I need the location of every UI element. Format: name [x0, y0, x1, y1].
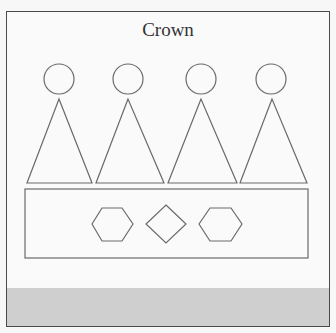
circle-3 [186, 64, 216, 94]
circle-4 [256, 64, 286, 94]
triangle-3 [168, 99, 237, 183]
crown-diagram [0, 0, 336, 333]
hexagon-gem-2 [199, 208, 242, 241]
circle-1 [44, 64, 74, 94]
triangle-1 [27, 99, 92, 183]
triangle-2 [96, 99, 164, 183]
triangle-4 [240, 99, 307, 183]
diamond-gem [146, 205, 186, 243]
hexagon-gem-1 [92, 208, 133, 241]
circle-2 [113, 64, 143, 94]
crown-band-rectangle [25, 189, 308, 258]
